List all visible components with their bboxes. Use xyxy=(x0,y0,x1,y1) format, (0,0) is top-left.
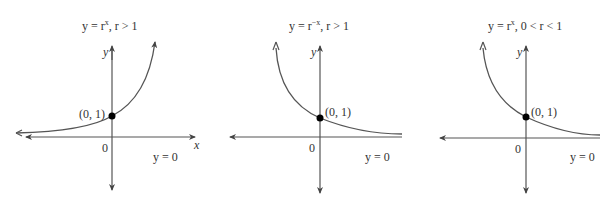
y-axis-label: y xyxy=(310,45,317,59)
origin-label: 0 xyxy=(309,141,315,155)
asymptote-label: y = 0 xyxy=(570,150,595,164)
exponential-graphs: y = rx, r > 1 (0, 1) 0 y = 0 x y y = r−x… xyxy=(0,0,600,205)
point-0-1 xyxy=(523,114,530,121)
panel-3-title: y = rx, 0 < r < 1 xyxy=(488,18,562,33)
panel-2-title: y = r−x, r > 1 xyxy=(289,18,349,33)
panel-2: y = r−x, r > 1 (0, 1) 0 y = 0 y xyxy=(230,18,402,193)
point-0-1 xyxy=(109,113,116,120)
point-label: (0, 1) xyxy=(79,107,105,121)
exponential-curve xyxy=(483,48,600,135)
asymptote-label: y = 0 xyxy=(365,150,390,164)
point-label: (0, 1) xyxy=(325,105,351,119)
origin-label: 0 xyxy=(515,142,521,156)
point-label: (0, 1) xyxy=(531,105,557,119)
point-0-1 xyxy=(317,115,324,122)
origin-label: 0 xyxy=(102,141,108,155)
asymptote-label: y = 0 xyxy=(153,150,178,164)
y-axis-label: y xyxy=(516,45,523,59)
panel-1-title: y = rx, r > 1 xyxy=(82,18,138,33)
y-axis-label: y xyxy=(102,45,109,59)
x-axis-label: x xyxy=(193,138,200,152)
panel-3: y = rx, 0 < r < 1 (0, 1) 0 y = 0 y xyxy=(440,18,600,193)
exponential-curve xyxy=(276,48,402,134)
panel-1: y = rx, r > 1 (0, 1) 0 y = 0 x y xyxy=(16,18,200,190)
